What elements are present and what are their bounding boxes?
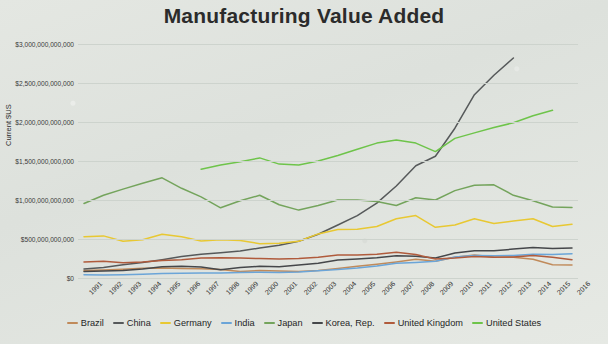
- legend-color-swatch: [160, 322, 171, 324]
- legend-item-united-kingdom[interactable]: United Kingdom: [384, 318, 463, 328]
- x-tick-label: 2011: [478, 280, 494, 296]
- series-line-japan: [84, 178, 572, 210]
- series-line-china: [84, 58, 513, 269]
- legend-label: India: [235, 318, 255, 328]
- gridline: [78, 239, 578, 240]
- legend-color-swatch: [113, 322, 124, 324]
- gridline: [78, 44, 578, 45]
- x-tick-label: 1996: [185, 280, 201, 296]
- x-tick-label: 2009: [439, 280, 455, 296]
- legend-color-swatch: [221, 322, 232, 324]
- x-tick-label: 1998: [224, 280, 240, 296]
- legend-item-india[interactable]: India: [221, 318, 255, 328]
- series-line-korea-rep: [84, 248, 572, 272]
- x-tick-label: 1993: [127, 280, 143, 296]
- x-tick-label: 1999: [244, 280, 260, 296]
- x-tick-label: 1995: [166, 280, 182, 296]
- x-axis-tick-labels: 1991199219931994199519961997199819992000…: [78, 280, 578, 314]
- legend-label: Japan: [278, 318, 303, 328]
- legend-label: Brazil: [81, 318, 104, 328]
- legend-color-swatch: [67, 322, 78, 324]
- legend-color-swatch: [384, 322, 395, 324]
- x-tick-label: 2008: [419, 280, 435, 296]
- x-tick-label: 2001: [283, 280, 299, 296]
- y-tick-label: $3,000,000,000,000: [15, 41, 74, 48]
- y-tick-label: $1,500,000,000,000: [15, 158, 74, 165]
- x-tick-label: 2010: [458, 280, 474, 296]
- y-tick-label: $0: [67, 275, 74, 282]
- chart-canvas: Manufacturing Value Added Current $US $3…: [0, 0, 608, 344]
- plot-area: [78, 44, 578, 278]
- legend-label: United States: [486, 318, 541, 328]
- legend-label: Korea, Rep.: [326, 318, 375, 328]
- x-tick-label: 2015: [556, 280, 572, 296]
- gridline: [78, 161, 578, 162]
- x-tick-label: 1991: [88, 280, 104, 296]
- x-tick-label: 2012: [497, 280, 513, 296]
- x-tick-label: 1994: [146, 280, 162, 296]
- legend-label: United Kingdom: [398, 318, 463, 328]
- legend-item-japan[interactable]: Japan: [264, 318, 303, 328]
- legend-label: China: [127, 318, 151, 328]
- legend-item-china[interactable]: China: [113, 318, 151, 328]
- y-tick-label: $2,000,000,000,000: [15, 119, 74, 126]
- legend-item-korea-rep[interactable]: Korea, Rep.: [312, 318, 375, 328]
- y-tick-label: $2,500,000,000,000: [15, 80, 74, 87]
- x-tick-label: 2007: [400, 280, 416, 296]
- legend-item-germany[interactable]: Germany: [160, 318, 212, 328]
- legend-color-swatch: [264, 322, 275, 324]
- gridline: [78, 122, 578, 123]
- legend-item-brazil[interactable]: Brazil: [67, 318, 104, 328]
- y-tick-label: $1,000,000,000,000: [15, 197, 74, 204]
- legend-color-swatch: [472, 322, 483, 324]
- x-tick-label: 2002: [302, 280, 318, 296]
- x-tick-label: 2005: [361, 280, 377, 296]
- x-tick-label: 1997: [205, 280, 221, 296]
- gridline: [78, 278, 578, 279]
- gridline: [78, 200, 578, 201]
- y-axis-title: Current $US: [4, 104, 13, 146]
- x-tick-label: 2000: [263, 280, 279, 296]
- legend-item-united-states[interactable]: United States: [472, 318, 541, 328]
- x-tick-label: 2014: [537, 280, 553, 296]
- x-tick-label: 1992: [107, 280, 123, 296]
- gridline: [78, 83, 578, 84]
- y-tick-label: $500,000,000,000: [21, 236, 74, 243]
- x-tick-label: 2004: [341, 280, 357, 296]
- x-tick-label: 2013: [517, 280, 533, 296]
- legend-color-swatch: [312, 322, 323, 324]
- x-tick-label: 2006: [380, 280, 396, 296]
- x-tick-label: 2003: [322, 280, 338, 296]
- page-title: Manufacturing Value Added: [0, 4, 608, 28]
- x-tick-label: 2016: [576, 280, 592, 296]
- legend: BrazilChinaGermanyIndiaJapanKorea, Rep.U…: [0, 318, 608, 328]
- legend-label: Germany: [174, 318, 212, 328]
